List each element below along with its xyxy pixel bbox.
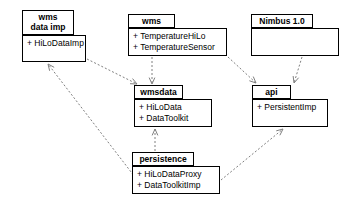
package-members-nimbus bbox=[252, 29, 338, 33]
dependency-arrowhead bbox=[48, 64, 54, 71]
uml-package-diagram: + HiLoDataImpwms data imp+ TemperatureHi… bbox=[0, 0, 346, 205]
package-name-tab-wmsdata: wmsdata bbox=[134, 85, 183, 99]
dep-persistence-to-wmsdata bbox=[152, 129, 158, 151]
package-name-tab-persistence: persistence bbox=[132, 152, 194, 166]
package-member: + HiLoDataProxy bbox=[137, 169, 215, 180]
package-member: + DataToolkit bbox=[139, 113, 207, 124]
package-member: + PersistentImp bbox=[257, 102, 323, 113]
dep-persistence-to-api bbox=[221, 129, 283, 180]
package-members-wms-data-imp: + HiLoDataImp bbox=[23, 36, 85, 51]
package-members-wmsdata: + HiLoData+ DataToolkit bbox=[135, 100, 211, 126]
package-member: + TemperatureSensor bbox=[133, 42, 222, 53]
package-members-api: + PersistentImp bbox=[253, 100, 327, 115]
package-name-tab-wms-data-imp: wms data imp bbox=[22, 10, 74, 35]
dep-wms-to-wmsdata bbox=[149, 57, 155, 84]
package-member: + HiLoDataImp bbox=[27, 38, 81, 49]
package-member: + TemperatureHiLo bbox=[133, 31, 222, 42]
package-body-api: + PersistentImp bbox=[252, 99, 328, 127]
package-body-persistence: + HiLoDataProxy+ DataToolkitImp bbox=[132, 166, 220, 194]
package-member: + DataToolkitImp bbox=[137, 180, 215, 191]
dependency-line bbox=[221, 129, 283, 180]
dependency-line bbox=[228, 57, 256, 83]
package-body-wms: + TemperatureHiLo+ TemperatureSensor bbox=[128, 28, 227, 56]
dep-wms-to-api bbox=[228, 57, 256, 83]
package-body-wms-data-imp: + HiLoDataImp bbox=[22, 35, 86, 62]
package-body-wmsdata: + HiLoData+ DataToolkit bbox=[134, 99, 212, 127]
package-name-tab-wms: wms bbox=[128, 14, 175, 28]
package-member: + HiLoData bbox=[139, 102, 207, 113]
package-members-wms: + TemperatureHiLo+ TemperatureSensor bbox=[129, 29, 226, 55]
package-name-tab-api: api bbox=[252, 85, 291, 99]
package-name-tab-nimbus: Nimbus 1.0 bbox=[251, 14, 313, 28]
dep-nimbus-to-api bbox=[293, 57, 302, 83]
package-members-persistence: + HiLoDataProxy+ DataToolkitImp bbox=[133, 167, 219, 193]
dependency-line bbox=[87, 59, 137, 84]
package-body-nimbus bbox=[251, 28, 339, 56]
dep-wmsdataimp-to-wmsdata bbox=[87, 59, 137, 84]
